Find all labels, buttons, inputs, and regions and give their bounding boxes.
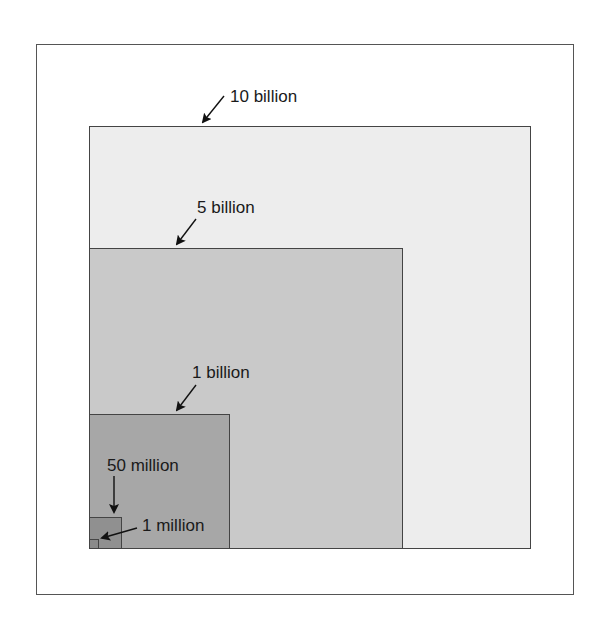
label-10-billion: 10 billion [230, 88, 297, 105]
label-5-billion: 5 billion [197, 199, 255, 216]
label-50-million: 50 million [107, 457, 179, 474]
label-1-million: 1 million [142, 517, 204, 534]
box-1-million [89, 539, 99, 549]
label-1-billion: 1 billion [192, 364, 250, 381]
